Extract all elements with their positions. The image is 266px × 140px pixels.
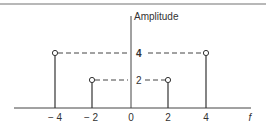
amplitude-spectrum-figure: Amplitude 4 2 − 4 − 2 0 2 4 [0, 0, 266, 140]
stem-marker-circle [89, 77, 94, 82]
x-tick-label-4: 4 [203, 112, 209, 123]
stem-f-plus-2 [165, 77, 170, 108]
x-tick-label-0: 0 [128, 112, 134, 123]
stem-marker-circle [52, 50, 57, 55]
stem-f-plus-4 [203, 50, 208, 108]
stem-marker-circle [165, 77, 170, 82]
stem-plot: Amplitude 4 2 − 4 − 2 0 2 4 [0, 0, 266, 140]
x-axis-label: f [249, 112, 253, 123]
stem-marker-circle [203, 50, 208, 55]
y-axis-label: Amplitude [134, 11, 179, 22]
stem-f-minus-4 [52, 50, 57, 108]
x-tick-label-minus-2: − 2 [84, 112, 99, 123]
stem-f-minus-2 [89, 77, 94, 108]
level-label-2: 2 [136, 75, 142, 86]
level-label-4: 4 [136, 48, 142, 59]
x-tick-label-minus-4: − 4 [48, 112, 63, 123]
x-tick-label-2: 2 [165, 112, 171, 123]
